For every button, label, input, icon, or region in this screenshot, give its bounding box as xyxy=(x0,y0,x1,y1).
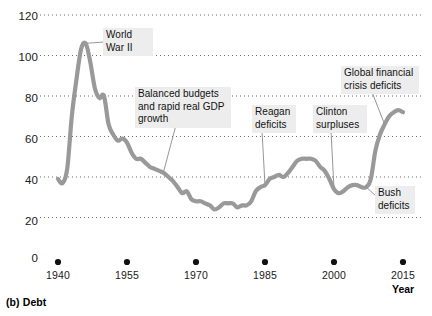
y-tick-label-20: 20 xyxy=(4,215,38,227)
x-tick-label-2015: 2015 xyxy=(381,269,425,281)
x-axis-title: Year xyxy=(392,283,414,295)
x-tick-label-1970: 1970 xyxy=(174,269,218,281)
annotation-balanced-budgets: Balanced budgets and rapid real GDP grow… xyxy=(135,87,231,128)
figure-caption: (b) Debt xyxy=(6,296,46,308)
y-tick-label-60: 60 xyxy=(4,133,38,145)
x-tick-label-2000: 2000 xyxy=(312,269,356,281)
x-tick-label-1940: 1940 xyxy=(36,269,80,281)
debt-chart-figure: 120 100 80 60 40 20 0 1940 1955 1970 198… xyxy=(0,0,432,316)
annotation-bush-deficits: Bush deficits xyxy=(375,186,415,214)
x-tick-marks xyxy=(55,259,406,265)
annotation-reagan-deficits: Reagan deficits xyxy=(252,105,296,133)
x-tick-label-1955: 1955 xyxy=(105,269,149,281)
y-tick-label-100: 100 xyxy=(4,51,38,63)
annotation-world-war-ii: World War II xyxy=(103,28,153,56)
x-tick-label-1985: 1985 xyxy=(243,269,287,281)
y-tick-label-80: 80 xyxy=(4,92,38,104)
annotation-global-financial-crisis: Global financial crisis deficits xyxy=(341,66,419,94)
y-tick-label-0: 0 xyxy=(4,252,38,264)
y-tick-label-40: 40 xyxy=(4,174,38,186)
annotation-clinton-surpluses: Clinton surpluses xyxy=(313,105,367,133)
y-tick-label-120: 120 xyxy=(4,10,38,22)
